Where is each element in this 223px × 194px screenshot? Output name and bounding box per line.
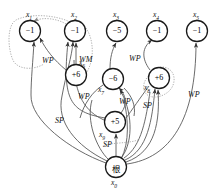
edge-label-wp-x0-x5: WP xyxy=(188,90,200,99)
edge-label-sp-x8-self: SP xyxy=(143,101,152,110)
node-value-x4: −1 xyxy=(146,26,168,35)
edge-label-wp-x9-x7: WP xyxy=(119,97,131,106)
edge-x2-loop-left xyxy=(9,16,70,69)
edge-label-wp-x9-x2: WP xyxy=(78,92,90,101)
edge-x6-x1 xyxy=(40,38,66,70)
node-value-x5: −1 xyxy=(186,26,208,35)
edge-x2-x1-dotted xyxy=(34,19,66,24)
node-value-x8: +6 xyxy=(148,73,170,82)
node-label-x2: x2 xyxy=(71,10,77,21)
node-value-x1: −1 xyxy=(19,26,41,35)
edge-label-wm-x6-x2: WM xyxy=(79,55,92,64)
node-label-x9: x9 xyxy=(99,130,105,141)
edge-label-sp-x0-x1: SP xyxy=(55,116,64,125)
node-label-x8: x8 xyxy=(144,83,150,94)
edge-group-solid xyxy=(31,38,196,164)
node-label-x1: x1 xyxy=(26,10,32,21)
node-value-x9: +5 xyxy=(104,117,126,126)
edge-x8-x4 xyxy=(144,40,152,70)
node-label-x4: x4 xyxy=(153,10,159,21)
edge-label-sp-x0-x9: SP xyxy=(103,140,112,149)
edge-x7-x3 xyxy=(110,43,116,69)
edge-label-wp-x8-x4: WP xyxy=(129,54,141,63)
node-value-x2: −1 xyxy=(64,26,86,35)
node-label-x3: x3 xyxy=(113,10,119,21)
edge-label-wp-x6-x1: WP xyxy=(42,56,54,65)
node-value-x3: −5 xyxy=(106,26,128,35)
graph-figure: −1 −1 −5 −1 −1 +6 −6 +6 +5 根 x1 x2 x3 x4… xyxy=(0,0,223,194)
node-value-x0: 根 xyxy=(105,162,127,174)
node-value-x7: −6 xyxy=(102,74,124,83)
node-label-x0: x0 xyxy=(111,178,117,189)
node-value-x6: +6 xyxy=(65,70,87,79)
node-label-x5: x5 xyxy=(193,10,199,21)
node-circle-group xyxy=(20,21,208,178)
node-label-x7: x7 xyxy=(98,85,104,96)
